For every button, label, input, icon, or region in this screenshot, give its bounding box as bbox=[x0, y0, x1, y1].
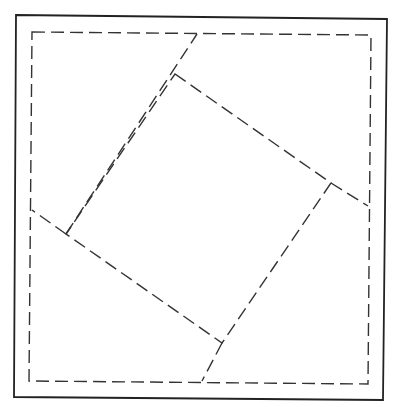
extension-line bbox=[202, 343, 222, 381]
extension-lines bbox=[32, 34, 368, 381]
extension-line bbox=[331, 183, 368, 206]
tilted-dashed-square bbox=[66, 74, 331, 343]
pythagorean-diagram bbox=[0, 0, 397, 407]
outer-square bbox=[14, 15, 387, 400]
extension-line bbox=[32, 210, 66, 234]
inner-dashed-square bbox=[29, 32, 371, 384]
